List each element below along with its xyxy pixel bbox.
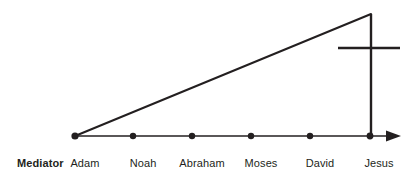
timeline-dot-jesus	[367, 133, 374, 140]
timeline-dot-abraham	[189, 133, 195, 139]
row-label-mediator: Mediator	[17, 157, 64, 169]
axis-label-jesus: Jesus	[364, 157, 393, 169]
timeline-dot-moses	[248, 133, 254, 139]
axis-arrowhead-icon	[386, 131, 401, 142]
mediator-timeline-diagram: Mediator Adam Noah Abraham Moses David J…	[0, 0, 420, 185]
ascending-line	[75, 14, 371, 136]
axis-label-adam: Adam	[70, 157, 99, 169]
timeline-dot-david	[307, 133, 313, 139]
timeline-dot-adam	[71, 132, 78, 139]
axis-label-david: David	[306, 157, 335, 169]
timeline-dot-noah	[130, 133, 136, 139]
axis-label-abraham: Abraham	[179, 157, 224, 169]
axis-label-moses: Moses	[245, 157, 278, 169]
axis-label-noah: Noah	[130, 157, 157, 169]
